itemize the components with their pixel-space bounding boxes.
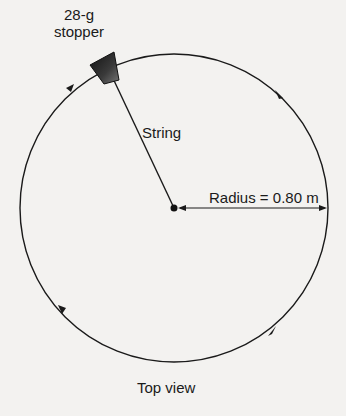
radius-label: Radius = 0.80 m bbox=[209, 189, 319, 206]
stopper-label: 28-g stopper bbox=[44, 6, 114, 40]
caption: Top view bbox=[137, 379, 195, 396]
radius-arrowhead-right-icon bbox=[319, 205, 327, 211]
stopper-name-text: stopper bbox=[44, 23, 114, 40]
radius-arrowhead-left-icon bbox=[178, 205, 186, 211]
stopper-icon bbox=[90, 52, 119, 84]
stopper-mass-text: 28-g bbox=[44, 6, 114, 23]
direction-arrow-icon bbox=[58, 84, 283, 336]
diagram-canvas bbox=[0, 0, 346, 416]
string-label: String bbox=[142, 124, 181, 141]
center-pivot bbox=[171, 205, 178, 212]
